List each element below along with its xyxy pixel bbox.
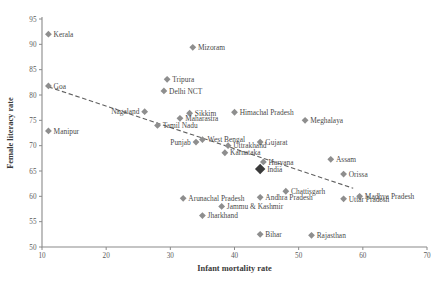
- data-point[interactable]: Delhi NCT: [161, 87, 203, 96]
- y-tick-label: 75: [29, 117, 37, 125]
- data-point-marker[interactable]: [199, 212, 206, 219]
- data-point[interactable]: India: [255, 164, 283, 174]
- data-point[interactable]: Jammu & Kashmir: [218, 202, 283, 211]
- chart-canvas: 5055606570758085909510203040506070Infant…: [0, 0, 440, 286]
- data-point-label: Gujarat: [265, 138, 288, 147]
- data-point-label: Nagaland: [111, 107, 140, 116]
- data-point[interactable]: Orissa: [340, 170, 368, 179]
- x-tick-label: 40: [231, 252, 239, 260]
- data-point[interactable]: Tripura: [164, 75, 195, 84]
- data-point-marker[interactable]: [257, 194, 264, 201]
- y-tick-label: 85: [29, 66, 37, 74]
- data-point-marker[interactable]: [340, 195, 347, 202]
- data-point[interactable]: Manipur: [45, 127, 80, 136]
- data-point-marker[interactable]: [45, 128, 52, 135]
- data-point[interactable]: Andhra Pradesh: [257, 193, 313, 202]
- y-tick-label: 80: [29, 92, 37, 100]
- data-point[interactable]: Himachal Pradesh: [231, 108, 294, 117]
- data-point-marker[interactable]: [189, 44, 196, 51]
- data-point[interactable]: Bihar: [257, 230, 283, 239]
- trend-line: [48, 87, 353, 188]
- data-point-label: Kerala: [54, 30, 74, 39]
- x-tick-label: 30: [167, 252, 175, 260]
- data-point-label: Bihar: [265, 230, 282, 239]
- data-point[interactable]: Assam: [327, 155, 356, 164]
- data-point-marker[interactable]: [45, 31, 52, 38]
- data-point-label: Uttar Pradesh: [349, 195, 390, 204]
- data-point-marker[interactable]: [164, 76, 171, 83]
- data-point[interactable]: Kerala: [45, 30, 74, 39]
- data-point[interactable]: Punjab: [170, 138, 199, 147]
- data-point-label: Rajasthan: [317, 231, 346, 240]
- x-tick-label: 10: [38, 252, 46, 260]
- x-axis-title: Infant mortality rate: [197, 264, 272, 273]
- y-axis-title: Female literacy rate: [6, 97, 15, 169]
- data-point-label: Karnataka: [230, 148, 261, 157]
- data-point-marker[interactable]: [154, 122, 161, 129]
- data-point-marker[interactable]: [302, 117, 309, 124]
- data-point-marker[interactable]: [180, 195, 187, 202]
- data-point-marker[interactable]: [255, 164, 265, 174]
- y-tick-label: 50: [29, 244, 37, 252]
- data-point-label: Mizoram: [198, 43, 225, 52]
- x-tick-label: 20: [103, 252, 111, 260]
- data-point-marker[interactable]: [193, 139, 200, 146]
- data-point-label: Goa: [54, 82, 67, 91]
- x-tick-label: 60: [359, 252, 367, 260]
- data-point-marker[interactable]: [257, 231, 264, 238]
- data-point[interactable]: Jharkhand: [199, 211, 238, 220]
- data-point[interactable]: Mizoram: [189, 43, 225, 52]
- data-point-marker[interactable]: [221, 149, 228, 156]
- data-point[interactable]: Nagaland: [111, 107, 148, 116]
- data-point-marker[interactable]: [340, 171, 347, 178]
- x-tick-label: 70: [423, 252, 431, 260]
- data-point-label: Himachal Pradesh: [240, 108, 294, 117]
- data-point[interactable]: Meghalaya: [302, 116, 344, 125]
- data-point-label: Andhra Pradesh: [265, 193, 313, 202]
- data-point-label: Meghalaya: [310, 116, 344, 125]
- data-point[interactable]: Karnataka: [221, 148, 261, 157]
- data-point[interactable]: Uttar Pradesh: [340, 195, 389, 204]
- data-point[interactable]: Goa: [45, 82, 67, 91]
- data-point-marker[interactable]: [231, 109, 238, 116]
- data-point[interactable]: Rajasthan: [308, 231, 346, 240]
- y-tick-label: 90: [29, 41, 37, 49]
- data-point-label: Punjab: [170, 138, 191, 147]
- data-point-marker[interactable]: [327, 156, 334, 163]
- data-point-label: Delhi NCT: [169, 87, 203, 96]
- x-tick-label: 50: [295, 252, 303, 260]
- y-tick-label: 60: [29, 193, 37, 201]
- y-tick-label: 55: [29, 218, 37, 226]
- y-tick-label: 65: [29, 168, 37, 176]
- data-point-marker[interactable]: [218, 203, 225, 210]
- data-point[interactable]: Tamil Nadu: [154, 121, 198, 130]
- scatter-chart: 5055606570758085909510203040506070Infant…: [0, 0, 440, 286]
- data-point-marker[interactable]: [161, 88, 168, 95]
- data-point-marker[interactable]: [141, 108, 148, 115]
- data-point-label: Tamil Nadu: [163, 121, 198, 130]
- data-point-label: India: [267, 165, 283, 174]
- data-point-label: Assam: [336, 155, 356, 164]
- y-tick-label: 70: [29, 142, 37, 150]
- y-tick-label: 95: [29, 16, 37, 24]
- data-point-label: Manipur: [54, 127, 80, 136]
- data-point-label: Tripura: [172, 75, 195, 84]
- data-point-label: Jammu & Kashmir: [227, 202, 284, 211]
- data-point-label: Orissa: [349, 170, 369, 179]
- data-point-label: Jharkhand: [208, 211, 239, 220]
- data-point-marker[interactable]: [308, 232, 315, 239]
